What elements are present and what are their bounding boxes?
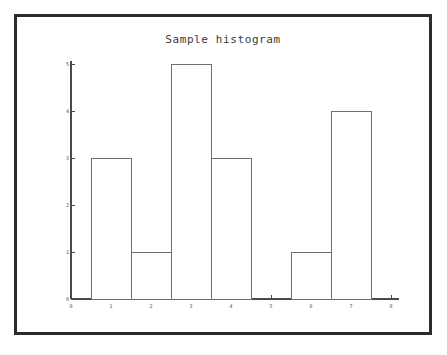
y-tick-label: 2 [59, 203, 69, 208]
x-tick-label: 6 [309, 304, 312, 309]
x-tick-label: 1 [109, 304, 112, 309]
histogram-bar [291, 252, 331, 299]
plot-area: 012345678012345 [17, 17, 435, 338]
x-tick-label: 5 [269, 304, 272, 309]
x-tick-label: 0 [69, 304, 72, 309]
histogram-screenshot: Sample histogram 012345678012345 [0, 0, 447, 355]
x-tick-label: 4 [229, 304, 232, 309]
y-tick-label: 4 [59, 109, 69, 114]
histogram-bar [211, 158, 251, 299]
y-tick-label: 1 [59, 250, 69, 255]
y-tick-label: 3 [59, 156, 69, 161]
histogram-bar [131, 252, 171, 299]
x-tick-label: 7 [349, 304, 352, 309]
histogram-bar [331, 111, 371, 299]
x-tick-label: 8 [389, 304, 392, 309]
figure-frame: Sample histogram 012345678012345 [14, 14, 432, 335]
y-tick-label: 5 [59, 62, 69, 67]
histogram-bar [171, 64, 211, 299]
y-tick-label: 0 [59, 297, 69, 302]
plot-svg [17, 17, 435, 338]
x-tick-label: 3 [189, 304, 192, 309]
histogram-bar [91, 158, 131, 299]
x-tick-label: 2 [149, 304, 152, 309]
